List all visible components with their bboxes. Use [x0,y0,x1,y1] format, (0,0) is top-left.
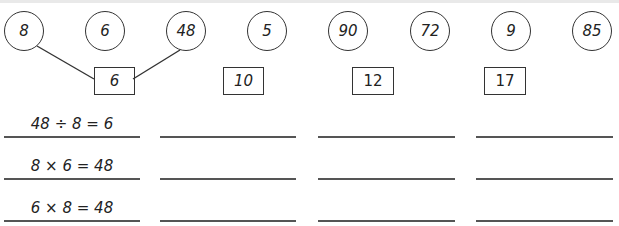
number-circle-2: 6 [85,11,125,51]
number-circle-4: 5 [247,11,287,51]
number-circle-3: 48 [166,11,206,51]
circle-value: 9 [506,22,516,40]
answer-line[interactable] [476,178,613,180]
number-circle-8: 85 [572,11,612,51]
circle-value: 48 [176,22,195,40]
number-circle-1: 8 [4,11,44,51]
equation-multiplication-1: 8 × 6 = 48 [4,157,140,175]
equation-division: 48 ÷ 8 = 6 [4,115,140,133]
circle-value: 8 [19,22,29,40]
answer-line[interactable] [318,136,455,138]
answer-line[interactable] [160,136,296,138]
circle-value: 85 [582,22,601,40]
answer-line[interactable] [318,178,455,180]
circle-value: 72 [420,22,439,40]
box-value: 17 [495,72,514,90]
number-box-4: 17 [484,67,526,95]
number-circle-5: 90 [328,11,368,51]
box-value: 10 [234,72,253,90]
number-box-3: 12 [352,67,394,95]
answer-line[interactable] [476,136,613,138]
answer-line[interactable] [160,220,296,222]
number-box-1: 6 [94,67,135,95]
answer-line[interactable] [318,220,455,222]
equation-multiplication-2: 6 × 8 = 48 [4,199,140,217]
number-circle-6: 72 [410,11,450,51]
circle-value: 6 [100,22,110,40]
answer-line[interactable] [4,178,140,180]
answer-line[interactable] [4,220,140,222]
circle-value: 5 [262,22,272,40]
answer-line[interactable] [476,220,613,222]
circle-value: 90 [338,22,357,40]
answer-line[interactable] [4,136,140,138]
number-box-2: 10 [223,67,264,95]
box-value: 12 [363,72,382,90]
number-circle-7: 9 [491,11,531,51]
box-value: 6 [110,72,120,90]
answer-line[interactable] [160,178,296,180]
